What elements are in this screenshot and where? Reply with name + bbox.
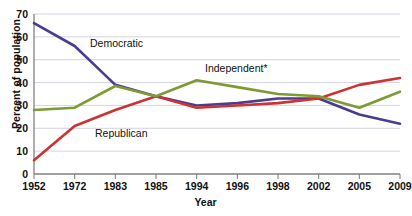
series-label-republican: Republican xyxy=(95,127,148,139)
series-label-democratic: Democratic xyxy=(90,37,143,49)
series-line-republican xyxy=(34,78,400,160)
series-label-independent: Independent* xyxy=(205,62,267,74)
